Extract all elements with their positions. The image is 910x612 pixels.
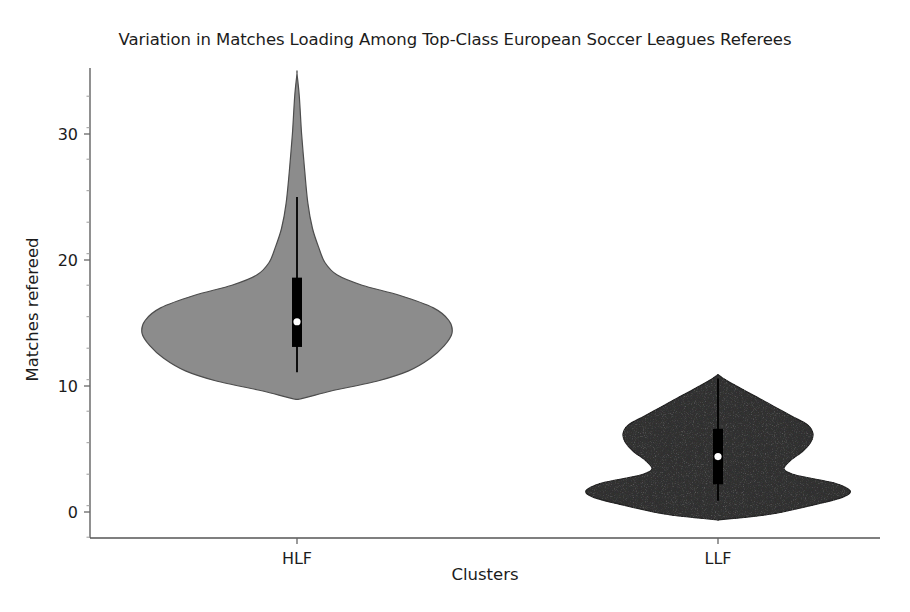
iqr-box-hlf <box>292 278 302 347</box>
median-point-hlf <box>293 318 300 325</box>
violin-llf <box>586 374 851 520</box>
plot-canvas <box>0 0 910 612</box>
figure-bottom-margin <box>0 596 910 612</box>
violin-hlf <box>142 71 452 399</box>
median-point-llf <box>714 453 721 460</box>
violin-plot-figure: Variation in Matches Loading Among Top-C… <box>0 0 910 612</box>
